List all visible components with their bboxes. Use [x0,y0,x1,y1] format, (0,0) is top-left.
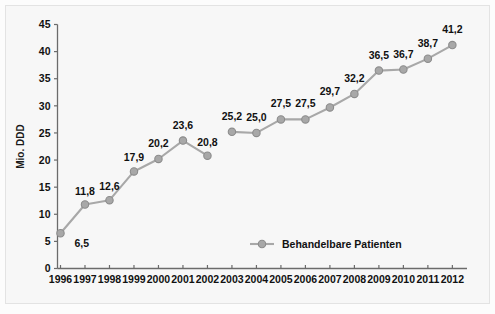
data-point-label: 29,7 [320,85,341,97]
chart-screenshot: 051015202530354045 199619971998199920002… [0,0,495,314]
data-point-marker [277,116,284,123]
data-point-marker [81,201,88,208]
data-point-marker [424,55,431,62]
x-axis-tick-label: 2011 [416,273,439,285]
y-axis-tick-label: 20 [39,154,51,166]
y-axis-tick-label: 5 [45,235,51,247]
x-axis-tick-label: 2004 [245,273,269,285]
data-point-label: 25,2 [222,110,243,122]
data-point-label: 25,0 [246,111,267,123]
y-axis-title: Mio. DDD [15,124,26,168]
data-point-label: 41,2 [442,23,463,35]
legend-entry-label: Behandelbare Patienten [282,238,402,250]
x-axis-tick-label: 2001 [171,273,195,285]
data-point-labels: 6,511,812,617,920,223,620,825,225,027,52… [75,23,463,249]
y-axis-tick-label: 10 [39,208,51,220]
data-point-label: 38,7 [418,37,439,49]
x-axis-tick-label: 2008 [343,273,367,285]
data-point-marker [228,128,235,135]
x-axis-tick-label: 2005 [269,273,293,285]
data-point-marker [351,90,358,97]
data-point-marker [449,41,456,48]
y-axis-tick-label: 35 [39,72,51,84]
y-axis-tick-label: 40 [39,45,51,57]
data-point-label: 23,6 [173,119,194,131]
data-point-marker [57,230,64,237]
x-axis-tick-label: 2007 [318,273,342,285]
data-series-lines [61,45,453,233]
data-point-label: 27,5 [271,97,292,109]
x-axis-tick-label: 1999 [122,273,146,285]
y-axis: 051015202530354045 [39,18,58,274]
x-axis-tick-label: 2006 [294,273,318,285]
data-point-label: 32,2 [344,72,365,84]
data-point-marker [400,66,407,73]
data-point-label: 36,5 [369,49,390,61]
data-point-marker [326,104,333,111]
data-point-marker [179,137,186,144]
data-point-marker [375,67,382,74]
data-point-label: 36,7 [393,48,414,60]
data-point-marker [155,155,162,162]
line-chart: 051015202530354045 199619971998199920002… [0,0,495,314]
data-point-label: 6,5 [75,237,90,249]
x-axis-tick-label: 1998 [98,273,122,285]
chart-legend: Behandelbare Patienten [250,238,402,250]
x-axis-tick-label: 1996 [49,273,73,285]
data-point-marker [130,168,137,175]
x-axis-tick-label: 1997 [73,273,97,285]
y-axis-tick-label: 25 [39,127,51,139]
x-axis-tick-label: 2000 [147,273,171,285]
data-point-marker [106,196,113,203]
data-point-label: 27,5 [295,97,316,109]
legend-marker-icon [258,240,265,247]
x-axis-tick-label: 2009 [367,273,391,285]
data-point-label: 20,8 [197,136,218,148]
x-axis-tick-label: 2002 [196,273,220,285]
y-axis-tick-label: 30 [39,100,51,112]
x-axis-tick-label: 2003 [220,273,244,285]
x-axis-tick-label: 2012 [441,273,465,285]
y-axis-tick-label: 45 [39,18,51,30]
y-axis-title-label: Mio. DDD [15,124,26,168]
y-axis-tick-label: 15 [39,181,51,193]
x-axis-tick-label: 2010 [392,273,416,285]
data-point-label: 12,6 [99,180,120,192]
x-axis: 1996199719981999200020012002200320042005… [49,265,467,285]
data-point-label: 17,9 [124,151,145,163]
data-point-label: 11,8 [75,185,95,197]
data-point-marker [253,129,260,136]
data-point-label: 20,2 [148,137,169,149]
data-point-marker [204,152,211,159]
data-point-marker [302,116,309,123]
